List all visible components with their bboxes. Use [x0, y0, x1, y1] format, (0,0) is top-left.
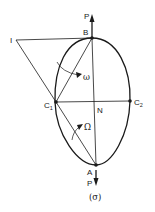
point-label-B: B — [83, 28, 88, 37]
c1-sub: 1 — [50, 105, 53, 111]
point-C1 — [54, 100, 58, 104]
figure-caption: (σ) — [89, 192, 101, 202]
line-I-C1 — [16, 40, 56, 102]
omega-arrowhead-icon — [76, 72, 82, 78]
c2-sub: 2 — [140, 102, 143, 108]
point-label-A: A — [87, 168, 93, 177]
point-label-I: I — [10, 36, 12, 45]
force-label-top: P — [84, 12, 89, 21]
point-C2 — [128, 99, 132, 103]
capital-omega-label: Ω — [84, 122, 91, 132]
line-C1-C2 — [56, 101, 130, 102]
force-label-bottom: P — [87, 179, 92, 188]
point-label-C1: C1 — [44, 101, 53, 111]
point-label-N: N — [97, 106, 103, 115]
point-label-C2: C2 — [134, 98, 143, 108]
omega-label: ω — [83, 72, 90, 82]
arrowhead-up-icon — [90, 14, 95, 22]
line-C1-B — [56, 38, 92, 102]
capital-omega-arrowhead-icon — [77, 124, 83, 130]
diagram-canvas: P P ω Ω I B C1 C2 N A (σ) — [0, 0, 155, 212]
arrowhead-down-icon — [94, 178, 99, 186]
point-A — [94, 163, 98, 167]
